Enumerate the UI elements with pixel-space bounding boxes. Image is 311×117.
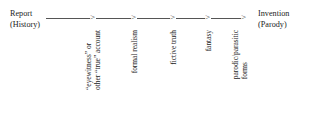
arrow-marker-2: > <box>131 10 136 24</box>
continuum-diagram: Report (History) Invention (Parody) > > … <box>0 0 311 117</box>
arrow-marker-3: > <box>170 10 175 24</box>
stage-label-5-line2: forms <box>240 30 249 79</box>
stage-label-2: formal realism <box>131 30 140 73</box>
stage-label-5-line1: parodic/parasitic <box>231 30 240 79</box>
axis-segment-1 <box>46 18 90 19</box>
stage-label-3-line1: fictive truth <box>170 30 179 65</box>
right-pole-label: Invention (Parody) <box>258 9 289 30</box>
stage-label-5: parodic/parasitic forms <box>231 30 250 79</box>
axis-segment-3 <box>137 18 170 19</box>
right-pole-line2: (Parody) <box>258 20 289 31</box>
stage-label-3: fictive truth <box>170 30 179 65</box>
stage-label-4-line1: fantasy <box>205 30 214 51</box>
stage-label-1-line2: other “true” account <box>93 30 102 90</box>
left-pole-label: Report (History) <box>10 9 40 30</box>
stage-label-1-line1: “eyewitness” or <box>84 30 93 90</box>
arrow-marker-5: > <box>241 10 246 24</box>
stage-label-2-line1: formal realism <box>131 30 140 73</box>
axis-segment-5 <box>211 18 241 19</box>
arrow-marker-4: > <box>205 10 210 24</box>
left-pole-line1: Report <box>10 9 32 18</box>
stage-label-1: “eyewitness” or other “true” account <box>84 30 103 90</box>
right-pole-line1: Invention <box>258 9 289 18</box>
arrow-marker-1: > <box>90 10 95 24</box>
axis-segment-2 <box>96 18 131 19</box>
axis-segment-4 <box>176 18 205 19</box>
stage-label-4: fantasy <box>205 30 214 51</box>
axis: > > > > > <box>46 10 248 24</box>
left-pole-line2: (History) <box>10 20 40 31</box>
